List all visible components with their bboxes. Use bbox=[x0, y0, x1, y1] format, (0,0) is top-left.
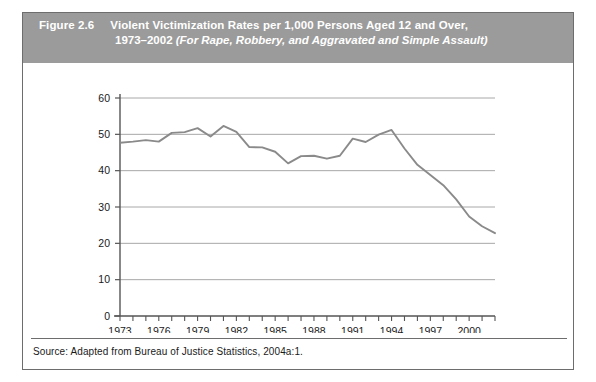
y-tick-label-0: 0 bbox=[104, 310, 110, 322]
x-tick-label-1991: 1991 bbox=[341, 325, 365, 333]
x-axis-ticks-group bbox=[120, 316, 495, 321]
chart-plot-region: 0102030405060 19731976197919821985198819… bbox=[23, 63, 573, 333]
figure-header-line-2: 1973–2002 (For Rape, Robbery, and Aggrav… bbox=[115, 34, 559, 46]
figure-frame: Figure 2.6 Violent Victimization Rates p… bbox=[22, 12, 574, 370]
figure-title-subtitle: (For Rape, Robbery, and Aggravated and S… bbox=[176, 34, 488, 46]
source-note: Source: Adapted from Bureau of Justice S… bbox=[33, 346, 303, 357]
y-tick-label-20: 20 bbox=[98, 237, 110, 249]
x-tick-label-1982: 1982 bbox=[225, 325, 249, 333]
figure-number-label: Figure 2.6 bbox=[39, 19, 94, 31]
figure-title-years: 1973–2002 bbox=[115, 34, 176, 46]
x-tick-label-2000: 2000 bbox=[457, 325, 481, 333]
x-tick-label-1988: 1988 bbox=[302, 325, 326, 333]
gridlines-group bbox=[120, 98, 495, 280]
y-tick-label-30: 30 bbox=[98, 201, 110, 213]
y-axis-tick-labels-group: 0102030405060 bbox=[98, 92, 120, 322]
x-tick-label-1973: 1973 bbox=[108, 325, 132, 333]
x-tick-label-1976: 1976 bbox=[147, 325, 171, 333]
y-tick-label-10: 10 bbox=[98, 273, 110, 285]
x-tick-label-1979: 1979 bbox=[186, 325, 210, 333]
source-divider bbox=[31, 338, 567, 339]
figure-header-line-1: Figure 2.6 Violent Victimization Rates p… bbox=[39, 19, 559, 31]
x-tick-label-1997: 1997 bbox=[419, 325, 443, 333]
y-tick-label-40: 40 bbox=[98, 164, 110, 176]
y-tick-label-50: 50 bbox=[98, 128, 110, 140]
x-tick-label-1994: 1994 bbox=[380, 325, 404, 333]
y-tick-label-60: 60 bbox=[98, 92, 110, 104]
figure-title-main: Violent Victimization Rates per 1,000 Pe… bbox=[110, 19, 468, 31]
series-line-violent-victimization-rate bbox=[120, 126, 495, 233]
axis-group bbox=[114, 94, 495, 316]
figure-header-bar: Figure 2.6 Violent Victimization Rates p… bbox=[23, 13, 573, 63]
x-tick-label-1985: 1985 bbox=[263, 325, 287, 333]
line-chart: 0102030405060 19731976197919821985198819… bbox=[23, 63, 575, 333]
x-axis-tick-labels-group: 1973197619791982198519881991199419972000 bbox=[108, 325, 481, 333]
